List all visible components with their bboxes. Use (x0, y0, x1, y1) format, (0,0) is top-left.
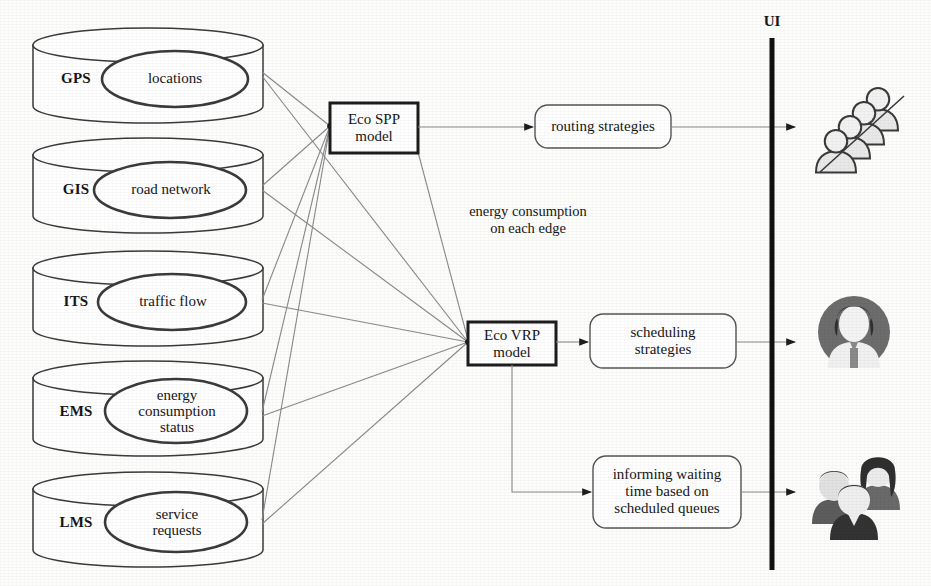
database-shapes (33, 28, 263, 567)
diagram-vector-layer (0, 0, 931, 586)
routing-strategies-box (535, 105, 671, 148)
database-gis (33, 138, 263, 233)
database-its (33, 251, 263, 346)
connector-spp-to-vrp (418, 152, 468, 340)
scheduling-strategies-box (590, 314, 736, 368)
eco-vrp-model-box (468, 322, 556, 365)
model-boxes (330, 103, 556, 365)
operator-avatar-icon (818, 296, 890, 368)
diagram-canvas: GPS GIS ITS EMS LMS locations road netwo… (0, 0, 931, 586)
customers-group-icon (812, 457, 900, 540)
database-lms (33, 472, 263, 567)
connectors-to-eco-spp (262, 72, 330, 520)
waiting-time-box (593, 456, 741, 528)
eco-spp-model-box (330, 103, 418, 153)
drivers-group-icon (816, 88, 904, 173)
output-boxes (535, 105, 741, 528)
ui-connectors (671, 127, 795, 492)
database-gps (33, 28, 263, 123)
output-connectors (418, 127, 591, 492)
database-ems (33, 361, 263, 456)
